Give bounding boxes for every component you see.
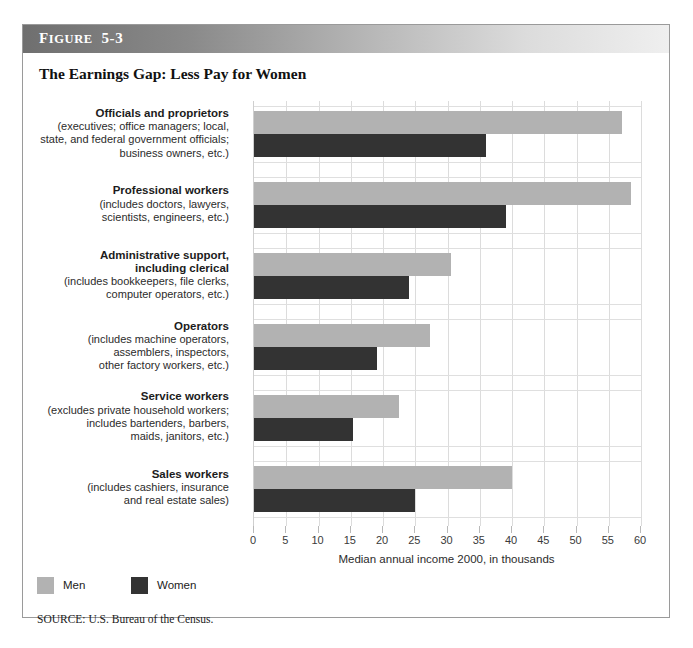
axis-tick-label: 20 — [376, 534, 388, 546]
gridline — [383, 101, 384, 526]
x-axis-title: Median annual income 2000, in thousands — [253, 553, 640, 565]
group-separator — [254, 304, 641, 305]
gridline — [351, 101, 352, 526]
axis-tick — [285, 526, 286, 533]
axis-tick-label: 5 — [282, 534, 288, 546]
category-label-description: (executives; office managers; local, — [29, 120, 229, 133]
group-separator — [254, 390, 641, 391]
bar-men — [254, 466, 512, 489]
category-label-description: scientists, engineers, etc.) — [29, 211, 229, 224]
category-label-description: (includes doctors, lawyers, — [29, 198, 229, 211]
axis-tick — [414, 526, 415, 533]
axis-tick-label: 35 — [473, 534, 485, 546]
gridline — [544, 101, 545, 526]
group-separator — [254, 162, 641, 163]
axis-tick — [447, 526, 448, 533]
figure-number: 5-3 — [101, 30, 123, 46]
bar-women — [254, 134, 486, 157]
bar-women — [254, 489, 415, 512]
axis-tick-label: 0 — [250, 534, 256, 546]
source-note: SOURCE: U.S. Bureau of the Census. — [37, 613, 213, 625]
legend-label-men: Men — [63, 579, 85, 591]
gridline — [286, 101, 287, 526]
category-label-description: (excludes private household workers; — [29, 404, 229, 417]
bar-women — [254, 205, 506, 228]
category-label-description: (includes bookkeepers, file clerks, — [29, 275, 229, 288]
group-separator — [254, 517, 641, 518]
gridline — [609, 101, 610, 526]
figure-number-label: FIGURE 5-3 — [39, 30, 123, 47]
category-label-description: (includes cashiers, insurance — [29, 481, 229, 494]
axis-tick — [576, 526, 577, 533]
axis-tick — [640, 526, 641, 533]
figure-word-initial: F — [39, 30, 49, 46]
category-label-description: other factory workers, etc.) — [29, 359, 229, 372]
axis-tick-label: 10 — [311, 534, 323, 546]
bar-men — [254, 395, 399, 418]
axis-tick — [382, 526, 383, 533]
figure-banner: FIGURE 5-3 — [23, 25, 669, 53]
category-label: Service workers(excludes private househo… — [29, 390, 229, 443]
axis-tick — [479, 526, 480, 533]
category-label: Administrative support,including clerica… — [29, 249, 229, 302]
axis-tick-label: 25 — [408, 534, 420, 546]
axis-tick — [318, 526, 319, 533]
group-separator — [254, 248, 641, 249]
gridline — [415, 101, 416, 526]
group-separator — [254, 177, 641, 178]
page-title: The Earnings Gap: Less Pay for Women — [39, 65, 306, 83]
axis-tick-label: 55 — [602, 534, 614, 546]
group-separator — [254, 461, 641, 462]
axis-tick-label: 45 — [537, 534, 549, 546]
bar-women — [254, 276, 409, 299]
category-label-description: computer operators, etc.) — [29, 288, 229, 301]
group-separator — [254, 319, 641, 320]
legend-swatch-men-icon — [37, 577, 54, 594]
axis-tick — [543, 526, 544, 533]
bar-women — [254, 347, 377, 370]
group-separator — [254, 106, 641, 107]
plot-area — [253, 101, 641, 526]
x-axis-ticks — [253, 526, 640, 534]
group-separator — [254, 233, 641, 234]
category-label-name: Professional workers — [29, 184, 229, 197]
category-label: Officials and proprietors(executives; of… — [29, 107, 229, 160]
category-label-description: includes bartenders, barbers, — [29, 417, 229, 430]
group-separator — [254, 375, 641, 376]
category-label-name: including clerical — [29, 262, 229, 275]
axis-tick-label: 40 — [505, 534, 517, 546]
gridline — [448, 101, 449, 526]
category-label: Operators(includes machine operators,ass… — [29, 320, 229, 373]
category-label-name: Officials and proprietors — [29, 107, 229, 120]
bar-women — [254, 418, 353, 441]
axis-tick-label: 30 — [440, 534, 452, 546]
figure-word-rest: IGURE — [49, 32, 93, 46]
category-label: Sales workers(includes cashiers, insuran… — [29, 468, 229, 508]
bar-men — [254, 111, 622, 134]
category-label-description: (includes machine operators, — [29, 333, 229, 346]
gridline — [319, 101, 320, 526]
bar-men — [254, 253, 451, 276]
axis-tick-label: 60 — [634, 534, 646, 546]
category-label-description: business owners, etc.) — [29, 147, 229, 160]
category-label-name: Operators — [29, 320, 229, 333]
category-label: Professional workers(includes doctors, l… — [29, 184, 229, 224]
figure-frame: FIGURE 5-3 The Earnings Gap: Less Pay fo… — [22, 24, 670, 618]
gridline — [512, 101, 513, 526]
axis-tick — [608, 526, 609, 533]
axis-tick — [253, 526, 254, 533]
x-axis-tick-labels: 051015202530354045505560 — [253, 534, 640, 550]
group-separator — [254, 446, 641, 447]
category-label-description: maids, janitors, etc.) — [29, 430, 229, 443]
category-label-name: Service workers — [29, 390, 229, 403]
axis-tick-label: 50 — [569, 534, 581, 546]
category-label-description: state, and federal government officials; — [29, 133, 229, 146]
axis-tick — [350, 526, 351, 533]
category-label-description: assemblers, inspectors, — [29, 346, 229, 359]
axis-tick — [511, 526, 512, 533]
bar-men — [254, 324, 430, 347]
bar-men — [254, 182, 631, 205]
category-label-name: Administrative support, — [29, 249, 229, 262]
category-label-name: Sales workers — [29, 468, 229, 481]
gridline — [577, 101, 578, 526]
